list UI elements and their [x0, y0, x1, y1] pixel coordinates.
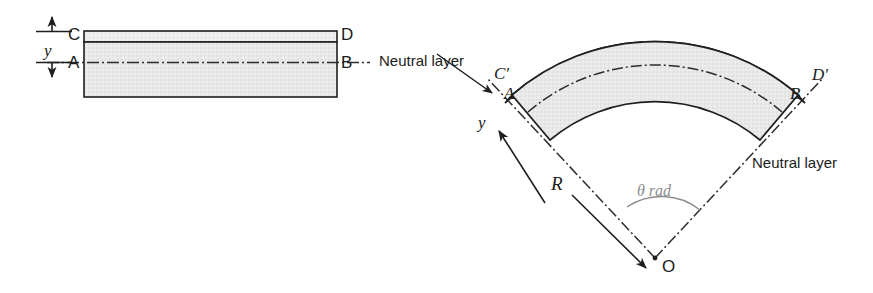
- top-strip-rect: [84, 31, 337, 42]
- center-point-label: O: [662, 257, 675, 276]
- radius-arrow: [572, 195, 646, 268]
- beam-body-rect: [84, 42, 337, 97]
- left-label-A: A: [68, 53, 80, 72]
- center-point-dot: [653, 256, 658, 261]
- right-label-A: A: [503, 84, 515, 103]
- right-label-B: B: [790, 84, 801, 103]
- left-label-D: D: [341, 25, 353, 44]
- left-label-B: B: [341, 53, 352, 72]
- theta-rad-label: θ rad: [637, 182, 672, 199]
- left-label-C: C: [68, 25, 80, 44]
- right-bent-beam-group: θ rad O R y C′ A B D′ Neutral layer: [437, 42, 837, 276]
- bent-beam-body: [512, 42, 798, 140]
- left-straight-beam-group: y C A D B Neutral layer: [36, 17, 464, 97]
- right-label-Dprime: D′: [811, 65, 828, 84]
- radius-label: R: [550, 173, 563, 194]
- right-dimension-y-label: y: [476, 113, 486, 132]
- right-dimension-y-arrow: [499, 131, 545, 203]
- neutral-layer-leader-arrow: [437, 54, 492, 93]
- left-neutral-layer-label: Neutral layer: [379, 52, 464, 69]
- right-label-Cprime: C′: [494, 64, 509, 83]
- figure-canvas: y C A D B Neutral layer: [0, 0, 873, 293]
- left-dimension-y-label: y: [42, 41, 52, 60]
- bending-neutral-layer-figure: y C A D B Neutral layer: [0, 0, 873, 293]
- right-neutral-layer-label: Neutral layer: [752, 154, 837, 171]
